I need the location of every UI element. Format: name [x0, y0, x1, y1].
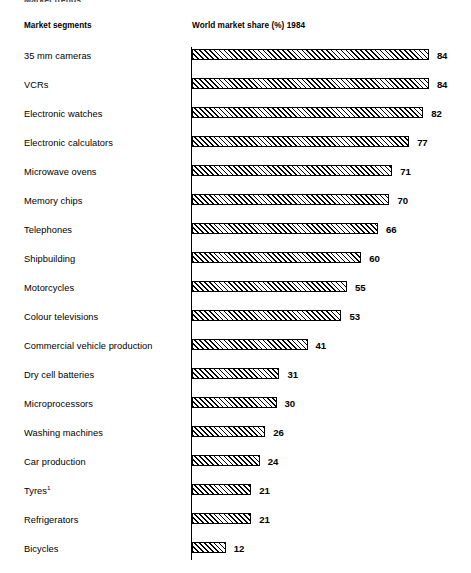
plot-area: 35 mm cameras84VCRs84Electronic watches8… — [0, 0, 471, 573]
bar-category-label: Microprocessors — [24, 399, 93, 409]
bar-row: 35 mm cameras84 — [0, 47, 471, 76]
bar-value-label: 53 — [349, 311, 359, 322]
bar-value-label: 70 — [397, 195, 407, 206]
bar-value-label: 41 — [316, 340, 326, 351]
bar-value-label: 30 — [285, 398, 295, 409]
bar-shape — [192, 484, 251, 495]
bar-shape — [192, 397, 277, 408]
bar-value-label: 82 — [431, 108, 441, 119]
bar-category-label: Dry cell batteries — [24, 370, 94, 380]
bar-shape — [192, 455, 260, 466]
bar-value-label: 55 — [355, 282, 365, 293]
bar-category-label: Telephones — [24, 225, 72, 235]
bar-value-label: 71 — [400, 166, 410, 177]
bar-shape — [192, 426, 265, 437]
bar-row: Car production24 — [0, 453, 471, 482]
market-share-bar-chart: Market trends Market segments World mark… — [0, 0, 471, 573]
bar-category-label: Car production — [24, 457, 86, 467]
bar-shape — [192, 368, 279, 379]
bar-shape — [192, 513, 251, 524]
bar-row: Motorcycles55 — [0, 279, 471, 308]
bar-shape — [192, 252, 361, 263]
bar-value-label: 24 — [268, 456, 278, 467]
bar-row: Dry cell batteries31 — [0, 366, 471, 395]
bar-category-label: Microwave ovens — [24, 167, 97, 177]
bar-shape — [192, 194, 389, 205]
bar-category-label: Refrigerators — [24, 515, 78, 525]
bar-category-label: Motorcycles — [24, 283, 74, 293]
bar-shape — [192, 49, 429, 60]
bar-shape — [192, 136, 409, 147]
bar-shape — [192, 339, 308, 350]
bar-value-label: 66 — [386, 224, 396, 235]
bar-value-label: 60 — [369, 253, 379, 264]
bar-row: Tyres121 — [0, 482, 471, 511]
bar-value-label: 84 — [437, 79, 447, 90]
bar-value-label: 84 — [437, 50, 447, 61]
bar-row: Electronic calculators77 — [0, 134, 471, 163]
bar-category-label: Tyres1 — [24, 486, 50, 496]
bar-value-label: 21 — [259, 514, 269, 525]
bar-row: Telephones66 — [0, 221, 471, 250]
bar-row: Commercial vehicle production41 — [0, 337, 471, 366]
bar-shape — [192, 542, 226, 553]
bar-category-label: Washing machines — [24, 428, 103, 438]
bar-row: Electronic watches82 — [0, 105, 471, 134]
bar-category-label: Electronic watches — [24, 109, 102, 119]
bar-category-label: VCRs — [24, 80, 48, 90]
bar-value-label: 31 — [287, 369, 297, 380]
bar-shape — [192, 310, 341, 321]
bar-row: VCRs84 — [0, 76, 471, 105]
bar-category-label: Memory chips — [24, 196, 82, 206]
bar-shape — [192, 107, 423, 118]
bar-value-label: 12 — [234, 543, 244, 554]
bar-shape — [192, 223, 378, 234]
bar-shape — [192, 165, 392, 176]
bar-category-label: Colour televisions — [24, 312, 98, 322]
bar-shape — [192, 78, 429, 89]
bar-value-label: 26 — [273, 427, 283, 438]
bar-shape — [192, 281, 347, 292]
bar-row: Colour televisions53 — [0, 308, 471, 337]
bar-category-label: Electronic calculators — [24, 138, 113, 148]
bar-value-label: 21 — [259, 485, 269, 496]
bar-row: Microwave ovens71 — [0, 163, 471, 192]
bar-row: Bicycles12 — [0, 540, 471, 569]
bar-category-label: Shipbuilding — [24, 254, 75, 264]
bar-row: Microprocessors30 — [0, 395, 471, 424]
bar-row: Washing machines26 — [0, 424, 471, 453]
bar-value-label: 77 — [417, 137, 427, 148]
footnote-marker: 1 — [47, 484, 51, 491]
bar-category-label: Commercial vehicle production — [24, 341, 153, 351]
bar-row: Refrigerators21 — [0, 511, 471, 540]
bar-category-label: 35 mm cameras — [24, 51, 91, 61]
bar-row: Shipbuilding60 — [0, 250, 471, 279]
bar-category-label: Bicycles — [24, 544, 59, 554]
bar-row: Memory chips70 — [0, 192, 471, 221]
